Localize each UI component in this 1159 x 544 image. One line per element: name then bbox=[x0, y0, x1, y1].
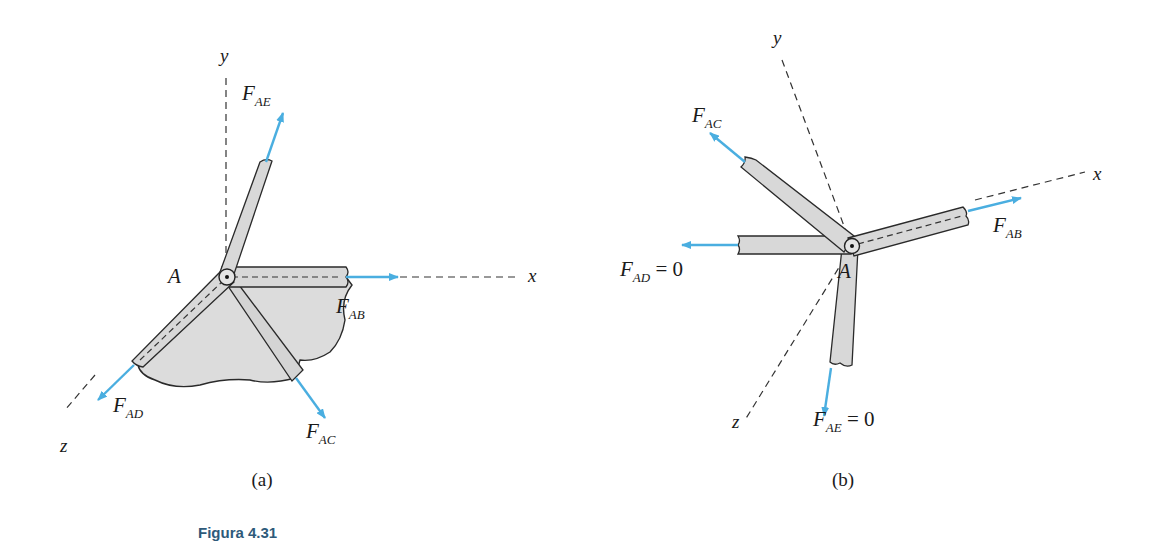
joint-label-a: A bbox=[166, 264, 181, 288]
panel-label-a: (a) bbox=[251, 469, 272, 491]
z-axis-a bbox=[65, 375, 95, 410]
figure-caption: Figura 4.31 bbox=[198, 524, 277, 541]
panel-b: y x z A FAC FAB FAD = 0 FAE = 0 (b) bbox=[619, 27, 1102, 491]
joint-label-b: A bbox=[836, 259, 851, 283]
force-label-ac-a: FAC bbox=[305, 419, 336, 447]
axis-label-z-a: z bbox=[59, 435, 68, 456]
axis-label-y-a: y bbox=[218, 45, 229, 66]
force-label-ad-a: FAD bbox=[112, 393, 144, 421]
force-arrow-ae-a bbox=[266, 113, 283, 162]
figure-canvas: y x z A FAE FAB FAD FAC (a) bbox=[0, 0, 1159, 544]
panel-a: y x z A FAE FAB FAD FAC (a) bbox=[59, 45, 537, 491]
force-arrow-ac-a bbox=[296, 378, 325, 418]
force-label-ae-b: FAE = 0 bbox=[812, 407, 875, 435]
force-label-ae-a: FAE bbox=[241, 81, 271, 109]
member-ae-a bbox=[220, 160, 272, 277]
panel-label-b: (b) bbox=[832, 469, 854, 491]
force-label-ac-b: FAC bbox=[691, 103, 722, 131]
x-axis-b bbox=[975, 172, 1085, 200]
member-ab-b bbox=[848, 207, 969, 256]
axis-label-x-b: x bbox=[1092, 163, 1102, 184]
axis-label-y-b: y bbox=[771, 27, 782, 48]
force-label-ad-b: FAD = 0 bbox=[619, 257, 683, 285]
axis-label-z-b: z bbox=[731, 411, 740, 432]
force-arrow-ac-b bbox=[710, 133, 745, 162]
force-label-ab-b: FAB bbox=[992, 213, 1022, 241]
axis-label-x-a: x bbox=[527, 265, 537, 286]
force-label-ab-a: FAB bbox=[335, 294, 365, 322]
